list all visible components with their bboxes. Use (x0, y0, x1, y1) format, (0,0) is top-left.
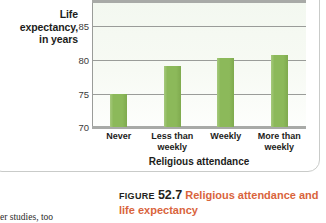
bar-slot-more-than-weekly (253, 1, 307, 127)
category-label-less-than-weekly-line-2: weekly (146, 142, 200, 153)
category-label-never-line-1: Never (92, 131, 146, 142)
category-label-more-than-weekly-line-2: weekly (253, 142, 307, 153)
y-axis-title: Life expectancy, in years (2, 8, 78, 46)
bar-slot-weekly (199, 1, 253, 127)
bar-more-than-weekly[interactable] (271, 55, 288, 127)
category-label-less-than-weekly-line-1: Less than (146, 131, 200, 142)
bar-weekly[interactable] (217, 58, 234, 127)
caption-figure-number: 52.7 (158, 188, 182, 202)
y-axis-tick-labels: 85 80 75 70 (73, 0, 89, 132)
bar-series (92, 1, 306, 127)
category-label-more-than-weekly-line-1: More than (253, 131, 307, 142)
category-label-weekly-line-1: Weekly (199, 131, 253, 142)
y-axis-title-line-1: Life (2, 8, 78, 21)
bar-slot-never (92, 1, 146, 127)
y-tick-label-80: 80 (73, 55, 89, 66)
y-axis-title-line-2: expectancy, (2, 21, 78, 34)
category-label-less-than-weekly: Less than weekly (146, 131, 200, 152)
figure-caption: FIGURE 52.7 Religious attendance and lif… (119, 188, 326, 217)
body-text-fragment: er studies, too (0, 212, 110, 223)
category-label-weekly: Weekly (199, 131, 253, 152)
category-label-never: Never (92, 131, 146, 152)
category-label-more-than-weekly: More than weekly (253, 131, 307, 152)
x-axis-title: Religious attendance (92, 156, 306, 167)
y-tick-label-75: 75 (73, 89, 89, 100)
caption-figure-word: FIGURE (119, 191, 155, 201)
bar-less-than-weekly[interactable] (164, 66, 181, 127)
y-axis-title-line-3: in years (2, 33, 78, 46)
bar-never[interactable] (110, 94, 127, 127)
x-axis-category-labels: Never Less than weekly Weekly More than … (92, 131, 306, 152)
y-tick-label-70: 70 (73, 122, 89, 133)
y-tick-label-85: 85 (73, 21, 89, 32)
bar-slot-less-than-weekly (146, 1, 200, 127)
